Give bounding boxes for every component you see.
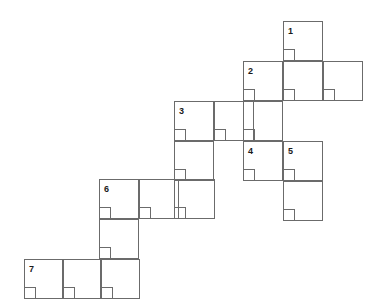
clue-number-2: 2 [248, 67, 253, 76]
cell-r2c6-corner-notch [243, 129, 255, 141]
cell-r3c7-corner-notch [283, 169, 295, 181]
cell-r6c1-corner-notch [63, 287, 75, 299]
clue-number-4: 4 [248, 147, 253, 156]
cell-r1c6-corner-notch [243, 89, 255, 101]
clue-number-7: 7 [29, 265, 34, 274]
cell-r4c4-corner-notch [174, 207, 186, 219]
cell-r4c2-corner-notch [99, 207, 111, 219]
cell-r6c2-corner-notch [101, 287, 113, 299]
cell-r2c5-corner-notch [214, 129, 226, 141]
puzzle-grid-canvas: 1234567 [0, 0, 379, 308]
cell-r6c0-corner-notch [24, 287, 36, 299]
cell-r4c3-corner-notch [139, 207, 151, 219]
cell-r0c7-corner-notch [283, 49, 295, 61]
cell-r1c7-corner-notch [283, 89, 295, 101]
clue-number-3: 3 [179, 107, 184, 116]
cell-r1c8-corner-notch [323, 89, 335, 101]
cell-r5c2-corner-notch [99, 247, 111, 259]
cell-r3c6-corner-notch [243, 169, 255, 181]
clue-number-5: 5 [288, 147, 293, 156]
clue-number-1: 1 [288, 27, 293, 36]
cell-r2c4-corner-notch [174, 129, 186, 141]
cell-r4c7-corner-notch [283, 209, 295, 221]
clue-number-6: 6 [104, 185, 109, 194]
